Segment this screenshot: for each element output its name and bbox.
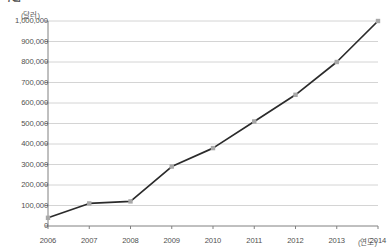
data-point-marker [376,19,380,23]
data-point-marker [252,119,256,123]
data-series-line [48,21,378,218]
data-point-marker [293,93,297,97]
data-point-marker [335,60,339,64]
x-tick-label: 2012 [276,236,316,245]
y-tick-label: 200,000 [4,180,48,189]
x-tick-label: 2013 [317,236,357,245]
x-tick-label: 2009 [152,236,192,245]
line-chart-plot [0,0,387,250]
gridlines [48,21,378,206]
x-tick-label: 2010 [193,236,233,245]
x-tick-label: 2007 [69,236,109,245]
y-tick-label: 300,000 [4,160,48,169]
x-tick-label: 2006 [28,236,68,245]
data-point-markers [46,19,380,220]
x-tick-label: 2014 [358,236,387,245]
y-tick-label: 900,000 [4,37,48,46]
chart-figure: 그림 (달러) (연도) 0100,000200,000300,000400,0… [0,0,387,250]
data-point-marker [128,199,132,203]
x-tick-label: 2008 [111,236,151,245]
y-axis-tick-labels: 0100,000200,000300,000400,000500,000600,… [0,0,48,250]
y-tick-label: 100,000 [4,201,48,210]
data-point-marker [211,146,215,150]
y-tick-label: 1,000,000 [4,16,48,25]
y-tick-label: 500,000 [4,119,48,128]
y-tick-label: 600,000 [4,98,48,107]
data-point-marker [170,164,174,168]
y-tick-label: 400,000 [4,139,48,148]
y-tick-label: 700,000 [4,78,48,87]
y-tick-label: 800,000 [4,57,48,66]
x-tick-label: 2011 [234,236,274,245]
y-tick-label: 0 [4,221,48,230]
data-point-marker [87,201,91,205]
